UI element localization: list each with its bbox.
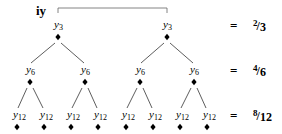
- node-subscript: 12: [18, 113, 26, 122]
- tree-edge: [170, 43, 193, 63]
- tree-node: y12: [148, 108, 162, 130]
- diamond-icon: [68, 124, 73, 130]
- node-label: y12: [202, 108, 216, 122]
- tree-node: y12: [121, 108, 135, 130]
- diamond-icon: [27, 79, 32, 85]
- tree-node: y6: [80, 63, 90, 85]
- tree-node: y12: [175, 108, 189, 130]
- tree-diagram-svg: y3y3y6y6y6y6y12y12y12y12y12y12y12y12 =2/…: [0, 0, 282, 134]
- tree-edges: [18, 43, 206, 108]
- diamond-icon: [123, 124, 128, 130]
- diamond-icon: [137, 79, 142, 85]
- equations: =2/3=4/6=8/12: [230, 18, 272, 124]
- diagram-title: iy: [36, 3, 47, 18]
- fraction-denominator: 12: [260, 110, 272, 124]
- node-label: y6: [189, 63, 199, 77]
- node-label: y6: [25, 63, 35, 77]
- tree-node: y12: [39, 108, 53, 130]
- tree-node: y12: [202, 108, 216, 130]
- node-label: y6: [80, 63, 90, 77]
- node-subscript: 6: [141, 68, 145, 77]
- tree-edge: [33, 88, 43, 108]
- bracket-line: [58, 8, 167, 13]
- tree-node: y12: [12, 108, 26, 130]
- node-subscript: 12: [181, 113, 189, 122]
- node-label: y12: [93, 108, 107, 122]
- diamond-icon: [95, 124, 100, 130]
- tree-edge: [31, 43, 55, 63]
- level-equation: =8/12: [230, 108, 272, 124]
- node-label: y12: [39, 108, 53, 122]
- diamond-icon: [164, 34, 169, 40]
- node-subscript: 12: [45, 113, 53, 122]
- tree-edge: [143, 88, 152, 108]
- equals-sign: =: [230, 108, 237, 123]
- diamond-icon: [14, 124, 19, 130]
- equals-sign: =: [230, 63, 237, 78]
- node-label: y12: [12, 108, 26, 122]
- tree-node: y6: [189, 63, 199, 85]
- fraction-denominator: 6: [260, 65, 266, 79]
- tree-edge: [88, 88, 97, 108]
- diamond-icon: [150, 124, 155, 130]
- tree-edge: [61, 43, 84, 63]
- diamond-icon: [177, 124, 182, 130]
- tree-node: y3: [162, 18, 172, 40]
- diamond-icon: [41, 124, 46, 130]
- level-equation: =4/6: [230, 63, 266, 79]
- tree-node: y6: [25, 63, 35, 85]
- tree-diagram: y3y3y6y6y6y6y12y12y12y12y12y12y12y12 =2/…: [0, 0, 282, 134]
- node-label: y12: [175, 108, 189, 122]
- tree-node: y6: [135, 63, 145, 85]
- tree-node: y12: [93, 108, 107, 130]
- equals-sign: =: [230, 18, 237, 33]
- node-subscript: 6: [31, 68, 35, 77]
- node-subscript: 12: [72, 113, 80, 122]
- tree-edge: [181, 88, 191, 108]
- diamond-icon: [191, 79, 196, 85]
- node-subscript: 6: [195, 68, 199, 77]
- node-subscript: 3: [168, 23, 172, 32]
- node-subscript: 12: [127, 113, 135, 122]
- node-subscript: 12: [154, 113, 162, 122]
- node-subscript: 6: [86, 68, 90, 77]
- node-subscript: 12: [99, 113, 107, 122]
- node-label: y12: [66, 108, 80, 122]
- tree-node: y12: [66, 108, 80, 130]
- tree-nodes: y3y3y6y6y6y6y12y12y12y12y12y12y12y12: [12, 18, 216, 130]
- node-label: y6: [135, 63, 145, 77]
- tree-node: y3: [53, 18, 63, 40]
- diamond-icon: [204, 124, 209, 130]
- tree-edge: [197, 88, 206, 108]
- level-equation: =2/3: [230, 18, 266, 34]
- tree-edge: [72, 88, 82, 108]
- node-label: y3: [162, 18, 172, 32]
- node-label: y12: [121, 108, 135, 122]
- node-label: y12: [148, 108, 162, 122]
- node-subscript: 12: [208, 113, 216, 122]
- node-subscript: 3: [59, 23, 63, 32]
- node-label: y3: [53, 18, 63, 32]
- top-bracket: [58, 8, 167, 13]
- tree-edge: [141, 43, 164, 63]
- diamond-icon: [82, 79, 87, 85]
- fraction-denominator: 3: [260, 20, 266, 34]
- diamond-icon: [55, 34, 60, 40]
- tree-edge: [127, 88, 137, 108]
- tree-edge: [18, 88, 27, 108]
